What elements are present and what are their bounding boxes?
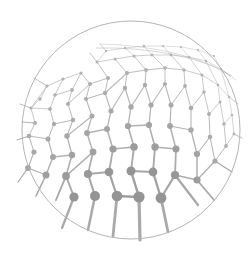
atom-node bbox=[84, 130, 90, 136]
atom-node bbox=[228, 96, 230, 98]
atom-node bbox=[103, 91, 107, 95]
atom-node bbox=[197, 49, 199, 51]
atom-node bbox=[208, 135, 213, 140]
atom-node bbox=[202, 90, 205, 93]
atom-node bbox=[62, 172, 70, 180]
atom-node bbox=[217, 84, 220, 87]
atom-node bbox=[205, 60, 207, 62]
atom-node bbox=[45, 84, 48, 87]
atom-node bbox=[133, 55, 136, 58]
atom-node bbox=[125, 71, 129, 75]
atomic-bond bbox=[128, 125, 149, 126]
atom-node bbox=[69, 152, 75, 158]
atom-node bbox=[156, 193, 167, 204]
atom-node bbox=[133, 191, 144, 202]
atom-node bbox=[90, 114, 95, 119]
atom-node bbox=[194, 151, 200, 157]
atom-node bbox=[182, 68, 185, 71]
atom-node bbox=[48, 107, 52, 111]
atom-node bbox=[222, 122, 225, 125]
atom-node bbox=[173, 146, 180, 153]
atom-node bbox=[167, 123, 173, 129]
atom-node bbox=[112, 191, 123, 202]
atom-node bbox=[144, 68, 148, 72]
atom-node bbox=[233, 133, 236, 136]
atom-node bbox=[171, 171, 179, 179]
atom-node bbox=[149, 168, 158, 177]
atom-node bbox=[180, 46, 182, 48]
atom-node bbox=[71, 118, 76, 123]
atomic-bond-edge bbox=[139, 197, 140, 240]
atom-node bbox=[163, 82, 167, 86]
atom-node bbox=[46, 137, 51, 142]
atom-node bbox=[38, 97, 41, 100]
atom-node bbox=[69, 192, 78, 201]
atom-node bbox=[114, 58, 117, 61]
atom-node bbox=[143, 83, 147, 87]
figure-background bbox=[0, 0, 252, 261]
atom-node bbox=[105, 168, 114, 177]
atom-node bbox=[88, 82, 92, 86]
lattice-canvas bbox=[0, 0, 252, 261]
atom-node bbox=[219, 101, 222, 104]
atom-node bbox=[106, 76, 110, 80]
atom-node bbox=[125, 123, 131, 129]
atom-node bbox=[108, 108, 113, 113]
nanostructure-figure bbox=[0, 0, 252, 261]
atom-node bbox=[84, 97, 88, 101]
atom-node bbox=[109, 145, 116, 152]
atom-node bbox=[188, 127, 193, 132]
atom-node bbox=[212, 158, 217, 163]
atom-node bbox=[123, 86, 127, 90]
atom-node bbox=[79, 71, 82, 74]
atom-node bbox=[213, 55, 215, 57]
atom-node bbox=[170, 54, 173, 57]
atom-node bbox=[29, 106, 32, 109]
atom-node bbox=[231, 114, 234, 117]
atom-node bbox=[52, 122, 56, 126]
atom-node bbox=[104, 126, 110, 132]
atom-node bbox=[189, 106, 194, 111]
atom-node bbox=[33, 121, 37, 125]
atom-node bbox=[43, 172, 50, 179]
atom-node bbox=[193, 176, 200, 183]
atom-node bbox=[90, 149, 97, 156]
atom-node bbox=[151, 143, 158, 150]
atom-node bbox=[146, 122, 152, 128]
atom-node bbox=[53, 93, 57, 97]
atom-node bbox=[188, 56, 191, 59]
atom-node bbox=[128, 104, 133, 109]
atom-node bbox=[127, 167, 136, 176]
atom-node bbox=[50, 154, 56, 160]
atom-node bbox=[169, 103, 174, 108]
atom-node bbox=[96, 61, 99, 64]
atom-node bbox=[162, 45, 164, 47]
atom-node bbox=[207, 112, 211, 116]
atom-node bbox=[31, 149, 36, 154]
atom-node bbox=[151, 54, 154, 57]
atom-node bbox=[163, 66, 167, 70]
atom-node bbox=[143, 45, 145, 47]
atom-node bbox=[64, 133, 69, 138]
atom-node bbox=[183, 84, 187, 88]
atom-node bbox=[124, 47, 126, 49]
atom-node bbox=[90, 191, 100, 201]
atom-node bbox=[66, 102, 70, 106]
atom-node bbox=[148, 102, 153, 107]
atom-node bbox=[130, 143, 138, 151]
atom-node bbox=[201, 74, 204, 77]
atom-node bbox=[224, 144, 228, 148]
atom-node bbox=[27, 134, 32, 139]
atom-node bbox=[84, 170, 92, 178]
atom-node bbox=[105, 50, 107, 52]
atom-node bbox=[70, 88, 74, 92]
atom-node bbox=[61, 77, 64, 80]
